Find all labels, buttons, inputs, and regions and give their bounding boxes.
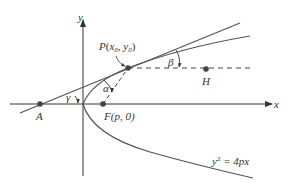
point-p	[125, 65, 131, 71]
diagram-canvas: y x P(x0, y0) F(p, 0) A H α β γ y2 = 4px	[0, 0, 288, 186]
angle-beta-label: β	[167, 56, 174, 68]
y-axis-label: y	[77, 11, 83, 23]
point-h	[203, 66, 209, 72]
point-a	[37, 101, 43, 107]
p-label-pointer	[116, 56, 125, 66]
angle-gamma-arc	[75, 96, 78, 103]
parabola-diagram: y x P(x0, y0) F(p, 0) A H α β γ y2 = 4px	[0, 0, 288, 186]
point-f	[100, 101, 106, 107]
point-f-label: F(p, 0)	[103, 110, 135, 123]
angle-alpha-label: α	[103, 82, 109, 94]
point-h-label: H	[201, 75, 211, 87]
angle-gamma-label: γ	[66, 91, 71, 103]
point-p-label: P(x0, y0)	[98, 40, 136, 54]
point-a-label: A	[35, 110, 43, 122]
parabola-equation: y2 = 4px	[211, 155, 249, 167]
x-axis-label: x	[273, 98, 279, 110]
